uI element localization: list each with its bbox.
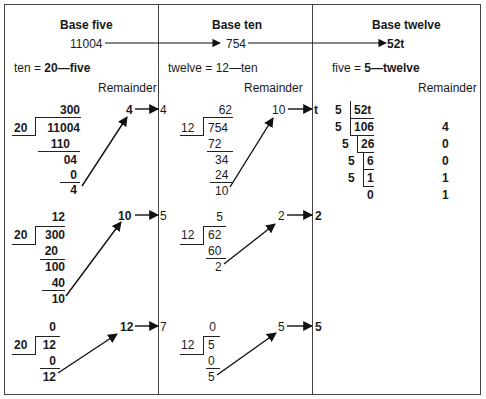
remainder-arrow	[66, 222, 121, 296]
remainder-arrow	[58, 334, 117, 373]
remainder-arrow	[230, 118, 273, 187]
arrows-overlay	[0, 0, 486, 399]
remainder-arrow	[224, 224, 275, 264]
remainder-arrow	[82, 117, 127, 186]
remainder-arrow	[217, 333, 276, 375]
